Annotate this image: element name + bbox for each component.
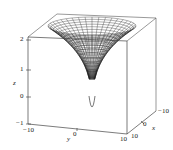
z-tick-0: 0 <box>20 93 24 100</box>
funnel-surface <box>48 17 136 107</box>
x-tick-10: 10 <box>131 133 138 140</box>
z-tick-1: 1 <box>20 66 24 73</box>
x-tick-minus10: −10 <box>158 108 169 115</box>
z-ticks <box>26 40 144 131</box>
y-tick-minus10: −10 <box>23 127 34 134</box>
y-tick-0: 0 <box>73 131 77 138</box>
y-axis-label: y <box>67 136 70 143</box>
y-tick-10: 10 <box>120 136 127 143</box>
z-axis-label: z <box>13 80 16 87</box>
z-tick-2: 2 <box>20 36 24 43</box>
x-tick-0: 0 <box>143 121 147 128</box>
x-axis-label: x <box>152 125 155 132</box>
